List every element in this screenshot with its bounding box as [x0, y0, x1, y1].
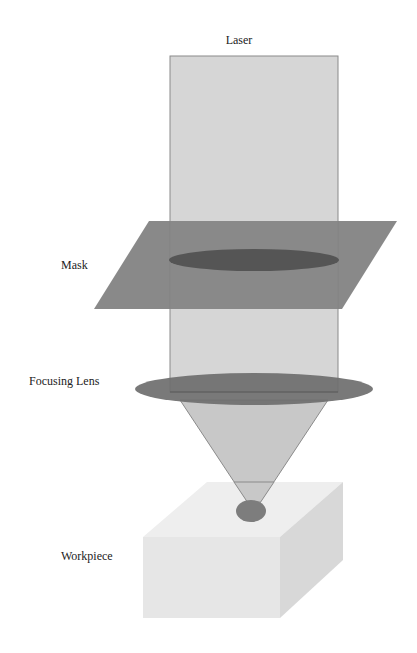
laser-diagram: Laser Mask Focusing Lens Workpiece [0, 0, 417, 653]
workpiece-front-face [143, 537, 280, 618]
focal-spot [236, 500, 266, 522]
workpiece-label: Workpiece [61, 549, 113, 563]
laser-label: Laser [226, 33, 253, 47]
mask-label: Mask [61, 258, 88, 272]
mask-aperture [169, 249, 339, 271]
lens-label: Focusing Lens [29, 374, 100, 388]
focusing-lens [135, 373, 373, 405]
